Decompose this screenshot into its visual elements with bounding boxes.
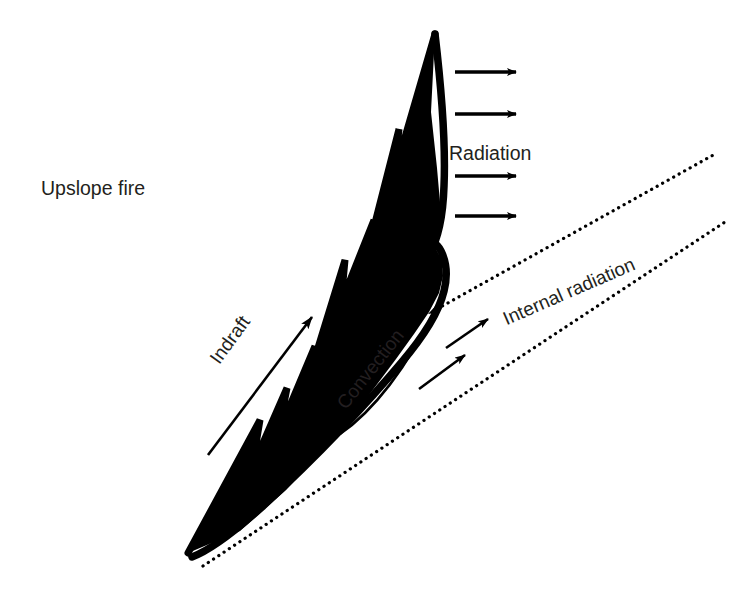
label-upslope-fire: Upslope fire <box>41 179 145 199</box>
internal-radiation-arrow-lower <box>419 355 465 389</box>
flame-shape <box>188 33 446 557</box>
figure-canvas: Upslope fire Radiation Indraft Convectio… <box>0 0 756 589</box>
label-radiation: Radiation <box>449 144 531 164</box>
diagram-svg <box>0 0 756 589</box>
internal-radiation-arrow-upper <box>446 319 488 348</box>
